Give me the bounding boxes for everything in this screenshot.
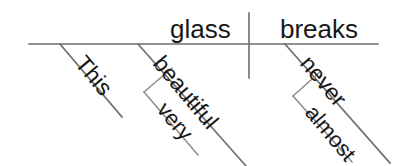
sentence-diagram: glass breaks Thisbeautifulveryneveralmos…: [0, 0, 397, 166]
diagram-canvas: glass breaks Thisbeautifulveryneveralmos…: [0, 0, 397, 166]
subject-word-glass: glass: [170, 14, 231, 44]
modifier-word-never: never: [295, 51, 352, 112]
modifier-word-almost: almost: [300, 100, 361, 166]
verb-word-breaks: breaks: [280, 14, 358, 44]
modifier-word-this: This: [70, 51, 118, 101]
